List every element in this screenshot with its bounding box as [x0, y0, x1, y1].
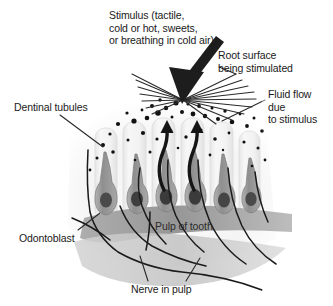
label-root-surface: Root surface being stimulated	[218, 49, 293, 74]
pulp-of-tooth-region	[74, 206, 292, 287]
label-dentinal-tubules: Dentinal tubules	[14, 101, 88, 114]
label-odontoblast: Odontoblast	[19, 232, 75, 245]
label-stimulus: Stimulus (tactile, cold or hot, sweets, …	[109, 9, 214, 47]
label-fluid-flow: Fluid flow due to stimulus	[268, 88, 317, 126]
dentin-sensitivity-diagram: Stimulus (tactile, cold or hot, sweets, …	[0, 0, 333, 306]
edge-fade	[262, 96, 333, 296]
label-nerve-in-pulp: Nerve in pulp	[131, 283, 192, 296]
label-pulp-of-tooth: Pulp of tooth	[155, 220, 213, 233]
